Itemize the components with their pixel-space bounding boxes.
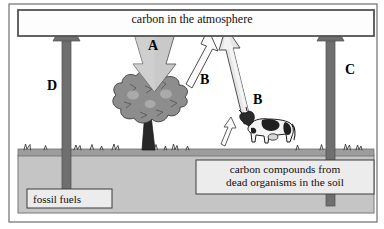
flux-label-b1: B bbox=[200, 72, 209, 88]
flux-label-b2: B bbox=[253, 92, 262, 108]
atmosphere-label: carbon in the atmosphere bbox=[0, 13, 384, 26]
flux-label-d: D bbox=[47, 78, 57, 94]
flux-arrow-soil-to-cow bbox=[221, 117, 236, 146]
soil-carbon-label-line2: dead organisms in the soil bbox=[201, 176, 369, 189]
soil-carbon-label: carbon compounds from dead organisms in … bbox=[201, 163, 369, 188]
flux-label-c: C bbox=[345, 62, 355, 78]
fossil-fuels-label: fossil fuels bbox=[33, 193, 81, 205]
cow-graphic bbox=[239, 107, 295, 143]
flux-label-a: A bbox=[148, 38, 158, 54]
carbon-cycle-diagram: carbon in the atmosphere fossil fuels ca… bbox=[0, 0, 384, 229]
ground-surface bbox=[18, 149, 374, 156]
soil-carbon-label-line1: carbon compounds from bbox=[201, 163, 369, 176]
